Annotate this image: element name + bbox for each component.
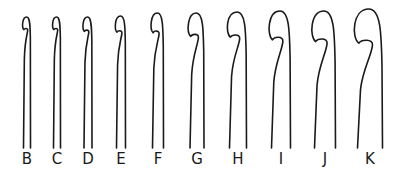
hook-b — [23, 17, 31, 148]
hook-label-c: C — [47, 150, 67, 168]
hook-label-d: D — [78, 150, 98, 168]
hook-outline — [53, 17, 61, 148]
hook-outline — [312, 11, 336, 148]
hook-k — [354, 9, 382, 148]
hook-label-e: E — [111, 150, 131, 168]
hook-outline — [188, 13, 204, 148]
hook-outline — [83, 17, 92, 148]
hook-e — [115, 16, 125, 148]
hook-label-i: I — [271, 150, 291, 168]
hook-f — [151, 13, 163, 148]
hook-outline — [151, 13, 163, 148]
hook-c — [53, 17, 61, 148]
hook-outline — [227, 12, 246, 148]
hook-j — [312, 11, 336, 148]
hook-h — [227, 12, 246, 148]
hook-outline — [115, 16, 125, 148]
hook-label-j: J — [315, 150, 335, 168]
hook-label-g: G — [187, 150, 207, 168]
hook-g — [188, 13, 204, 148]
hook-d — [83, 17, 92, 148]
hook-label-f: F — [148, 150, 168, 168]
hook-label-b: B — [17, 150, 37, 168]
hook-i — [269, 11, 290, 148]
hook-label-h: H — [228, 150, 248, 168]
hook-label-k: K — [360, 150, 380, 168]
hook-outline — [23, 17, 31, 148]
hook-outline — [354, 9, 382, 148]
hook-outline — [269, 11, 290, 148]
